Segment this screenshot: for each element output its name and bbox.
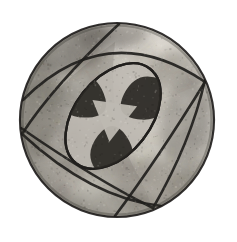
- film-grain-speck: [150, 47, 151, 49]
- film-grain-speck: [203, 115, 205, 116]
- film-grain-speck: [181, 175, 183, 176]
- film-grain-speck: [47, 87, 49, 88]
- film-grain-speck: [138, 207, 140, 209]
- film-grain-speck: [122, 59, 124, 61]
- film-grain-speck: [161, 62, 163, 64]
- film-grain-speck: [196, 122, 198, 123]
- film-grain-speck: [114, 108, 115, 110]
- film-grain-speck: [93, 42, 95, 44]
- film-grain-speck: [120, 154, 122, 155]
- film-grain-speck: [73, 194, 75, 195]
- film-grain-speck: [196, 163, 198, 164]
- film-grain-speck: [193, 171, 194, 172]
- film-grain-speck: [60, 105, 62, 107]
- film-grain-speck: [199, 148, 200, 150]
- film-grain-speck: [199, 118, 201, 120]
- film-grain-speck: [93, 47, 94, 49]
- film-grain-speck: [79, 57, 81, 59]
- film-grain-speck: [35, 133, 37, 134]
- film-grain-speck: [163, 57, 165, 59]
- film-grain-speck: [66, 66, 68, 68]
- film-grain-speck: [92, 165, 93, 166]
- film-grain-speck: [84, 108, 85, 109]
- film-grain-speck: [110, 71, 111, 72]
- film-grain-speck: [56, 151, 57, 152]
- film-grain-speck: [88, 189, 90, 190]
- film-grain-speck: [85, 144, 86, 146]
- film-grain-speck: [29, 106, 30, 108]
- film-grain-speck: [51, 83, 52, 84]
- sphere-artifact-photograph: Spherical artifact incised with a three-…: [0, 0, 237, 242]
- film-grain-speck: [202, 108, 203, 110]
- film-grain-speck: [103, 167, 105, 168]
- film-grain-speck: [91, 54, 93, 56]
- film-grain-speck: [123, 57, 124, 59]
- film-grain-speck: [135, 206, 136, 207]
- film-grain-speck: [91, 111, 93, 113]
- film-grain-speck: [186, 66, 188, 68]
- film-grain-speck: [70, 75, 72, 76]
- film-grain-speck: [180, 171, 181, 173]
- film-grain-speck: [79, 92, 81, 93]
- film-grain-speck: [99, 98, 100, 99]
- film-grain-speck: [152, 129, 154, 130]
- film-grain-speck: [177, 79, 179, 80]
- film-grain-speck: [131, 99, 133, 100]
- film-grain-speck: [185, 158, 186, 159]
- film-grain-speck: [120, 121, 122, 123]
- film-grain-speck: [157, 179, 159, 180]
- film-grain-speck: [161, 150, 163, 151]
- film-grain-speck: [154, 110, 156, 111]
- film-grain-speck: [108, 88, 110, 90]
- film-grain-speck: [208, 122, 210, 123]
- film-grain-speck: [149, 136, 150, 138]
- film-grain-speck: [118, 198, 120, 200]
- film-grain-speck: [123, 205, 125, 206]
- film-grain-speck: [85, 86, 87, 88]
- film-grain-speck: [192, 160, 193, 161]
- film-grain-speck: [107, 62, 108, 63]
- film-grain-speck: [48, 96, 50, 98]
- film-grain-speck: [159, 53, 160, 54]
- film-grain-speck: [58, 114, 60, 115]
- film-grain-speck: [78, 60, 80, 62]
- film-grain-speck: [138, 67, 139, 69]
- film-grain-speck: [125, 99, 127, 100]
- film-grain-speck: [196, 148, 198, 150]
- film-grain-speck: [134, 28, 135, 29]
- film-grain-speck: [78, 190, 79, 192]
- film-grain-speck: [40, 148, 42, 150]
- film-grain-speck: [43, 63, 44, 65]
- film-grain-speck: [163, 125, 164, 127]
- film-grain-speck: [53, 171, 54, 173]
- film-grain-speck: [100, 107, 101, 108]
- film-grain-speck: [76, 58, 78, 60]
- film-grain-speck: [163, 129, 164, 130]
- film-grain-speck: [59, 192, 61, 194]
- film-grain-speck: [85, 101, 87, 102]
- film-grain-speck: [94, 33, 95, 34]
- film-grain-speck: [142, 54, 144, 56]
- figure-root: Spherical artifact incised with a three-…: [0, 0, 237, 242]
- film-grain-speck: [144, 165, 145, 167]
- film-grain-speck: [40, 171, 42, 172]
- film-grain-speck: [96, 208, 97, 210]
- film-grain-speck: [199, 79, 201, 81]
- film-grain-speck: [60, 119, 61, 120]
- film-grain-speck: [50, 118, 52, 120]
- film-grain-speck: [186, 142, 187, 143]
- film-grain-speck: [159, 88, 160, 89]
- film-grain-speck: [114, 210, 115, 212]
- film-grain-speck: [163, 140, 164, 142]
- film-grain-speck: [159, 44, 160, 45]
- film-grain-speck: [202, 143, 203, 144]
- film-grain-speck: [75, 157, 77, 159]
- film-grain-speck: [116, 129, 118, 131]
- film-grain-speck: [189, 126, 190, 127]
- film-grain-speck: [42, 118, 43, 119]
- film-grain-speck: [140, 201, 142, 203]
- film-grain-speck: [161, 46, 163, 48]
- film-grain-speck: [47, 111, 48, 113]
- film-grain-speck: [172, 95, 174, 96]
- film-grain-speck: [150, 192, 152, 193]
